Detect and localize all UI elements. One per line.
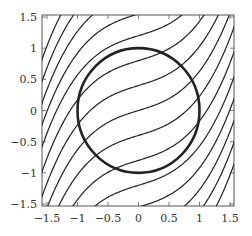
chart: −1.5−1−0.500.511.5 −1.5−1−0.500.511.5: [0, 0, 252, 236]
y-tick-label: 0: [30, 105, 37, 118]
y-tick-label: −1: [21, 167, 37, 180]
y-tick-label: 1: [30, 42, 37, 55]
x-tick-labels: −1.5−1−0.500.511.5: [34, 212, 239, 225]
x-tick-label: 0.5: [160, 212, 178, 225]
x-tick-label: −1.5: [34, 212, 61, 225]
flow-curve-9: [29, 0, 249, 214]
y-tick-label: −1.5: [10, 198, 37, 211]
x-tick-label: 1: [196, 212, 203, 225]
y-tick-label: 1.5: [20, 11, 38, 24]
y-tick-label: −0.5: [10, 136, 37, 149]
flow-curve-3: [29, 53, 249, 236]
flow-curves: [29, 0, 249, 236]
x-tick-label: 1.5: [221, 212, 239, 225]
x-tick-label: 0: [135, 212, 142, 225]
x-tick-label: −1: [69, 212, 85, 225]
y-tick-labels: −1.5−1−0.500.511.5: [10, 11, 37, 211]
y-tick-label: 0.5: [20, 73, 38, 86]
x-tick-label: −0.5: [95, 212, 122, 225]
